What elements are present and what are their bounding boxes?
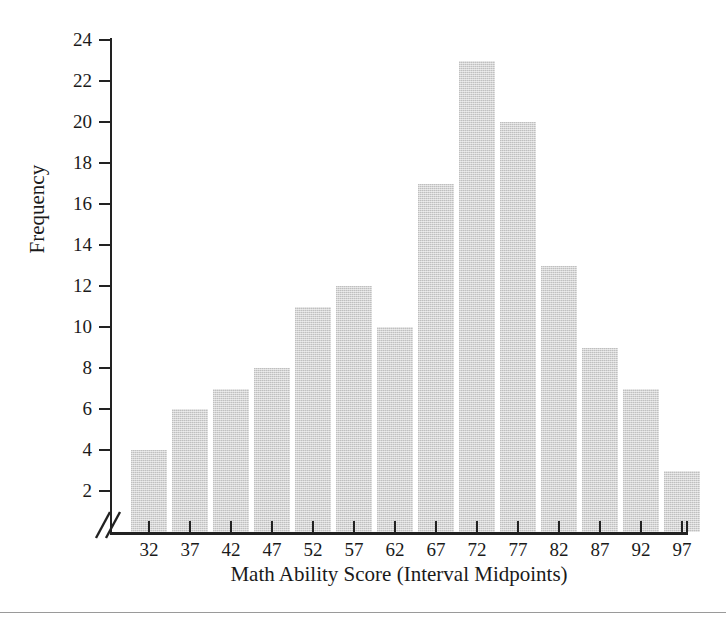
y-tick-20: 20	[99, 121, 110, 123]
histogram-bar	[172, 409, 208, 532]
histogram-bar	[623, 389, 659, 533]
x-tick-77	[517, 521, 519, 533]
y-tick-label: 24	[73, 30, 92, 49]
x-tick-label: 92	[632, 540, 651, 559]
y-tick-label: 22	[73, 71, 92, 90]
y-tick-label: 10	[73, 317, 92, 336]
x-tick-label: 87	[591, 540, 610, 559]
x-tick-label: 57	[345, 540, 364, 559]
y-axis-title: Frequency	[22, 226, 52, 251]
y-tick-label: 6	[83, 399, 93, 418]
x-tick-67	[435, 521, 437, 533]
x-tick-92	[640, 521, 642, 533]
x-tick-42	[230, 521, 232, 533]
histogram-bar	[295, 307, 331, 533]
histogram-bar	[336, 286, 372, 532]
x-axis-line	[110, 532, 688, 535]
x-tick-97	[681, 521, 683, 533]
x-tick-52	[312, 521, 314, 533]
x-tick-label: 67	[427, 540, 446, 559]
x-tick-32	[148, 521, 150, 533]
x-tick-72	[476, 521, 478, 533]
x-tick-label: 77	[509, 540, 528, 559]
x-tick-37	[189, 521, 191, 533]
y-tick-label: 2	[83, 481, 93, 500]
y-tick-label: 20	[73, 112, 92, 131]
x-tick-label: 32	[140, 540, 159, 559]
x-tick-62	[394, 521, 396, 533]
x-axis-title: Math Ability Score (Interval Midpoints)	[110, 562, 688, 587]
histogram-bar	[541, 266, 577, 533]
page-bottom-rule	[0, 612, 726, 613]
histogram-bar	[582, 348, 618, 533]
histogram-bar	[459, 61, 495, 533]
y-tick-label: 4	[83, 440, 93, 459]
x-tick-label: 72	[468, 540, 487, 559]
y-tick-10: 10	[99, 326, 110, 328]
y-tick-4: 4	[99, 449, 110, 451]
y-tick-label: 12	[73, 276, 92, 295]
x-tick-label: 47	[263, 540, 282, 559]
y-axis-title-text: Frequency	[25, 224, 50, 254]
histogram-bar	[377, 327, 413, 532]
x-tick-label: 52	[304, 540, 323, 559]
y-tick-6: 6	[99, 408, 110, 410]
histogram-figure: 24681012141618202224 3237424752576267727…	[0, 0, 726, 619]
y-tick-8: 8	[99, 367, 110, 369]
histogram-bar	[418, 184, 454, 533]
y-tick-label: 18	[73, 153, 92, 172]
y-tick-label: 16	[73, 194, 92, 213]
x-tick-label: 37	[181, 540, 200, 559]
histogram-bar	[131, 450, 167, 532]
y-tick-label: 8	[83, 358, 93, 377]
x-axis-end-cap	[686, 521, 688, 534]
x-tick-label: 62	[386, 540, 405, 559]
x-tick-57	[353, 521, 355, 533]
bars-layer	[110, 38, 688, 532]
x-tick-47	[271, 521, 273, 533]
x-tick-label: 42	[222, 540, 241, 559]
y-tick-24: 24	[99, 39, 110, 41]
histogram-bar	[500, 122, 536, 532]
y-tick-16: 16	[99, 203, 110, 205]
y-tick-14: 14	[99, 244, 110, 246]
histogram-bar	[213, 389, 249, 533]
x-tick-87	[599, 521, 601, 533]
y-tick-18: 18	[99, 162, 110, 164]
y-tick-label: 14	[73, 235, 92, 254]
axis-break-icon	[88, 508, 130, 542]
x-tick-82	[558, 521, 560, 533]
x-tick-label: 97	[673, 540, 692, 559]
histogram-bar	[254, 368, 290, 532]
x-tick-label: 82	[550, 540, 569, 559]
y-tick-12: 12	[99, 285, 110, 287]
y-tick-2: 2	[99, 490, 110, 492]
y-tick-22: 22	[99, 80, 110, 82]
